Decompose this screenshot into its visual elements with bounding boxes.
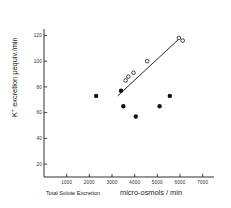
axes	[44, 29, 214, 177]
data-point-open	[181, 39, 185, 43]
figure: 20406080100120 1000200030004000500060007…	[0, 0, 231, 208]
scatter-plot	[0, 0, 231, 208]
x-tick-label: 2000	[80, 180, 98, 185]
x-tick-marks	[67, 174, 203, 177]
y-tick-label: 40	[32, 136, 42, 141]
trend-line-group	[118, 38, 180, 96]
y-tick-label: 100	[32, 59, 42, 64]
y-tick-marks	[44, 35, 47, 164]
y-tick-label: 20	[32, 162, 42, 167]
y-axis-label-prefix: K	[10, 112, 19, 117]
data-point-filled	[94, 94, 98, 98]
y-tick-label: 80	[32, 85, 42, 90]
x-axis-label-part2: micro-osmols / min	[120, 188, 182, 197]
data-markers-group	[94, 36, 185, 119]
y-tick-label: 120	[32, 33, 42, 38]
x-tick-label: 6000	[171, 180, 189, 185]
x-tick-label: 3000	[103, 180, 121, 185]
x-tick-label: 7000	[194, 180, 212, 185]
data-point-filled	[134, 114, 138, 118]
data-point-open	[127, 75, 131, 79]
regression-line	[118, 38, 180, 96]
x-tick-label: 1000	[58, 180, 76, 185]
data-point-filled	[157, 104, 161, 108]
y-tick-label: 60	[32, 110, 42, 115]
x-tick-label: 5000	[148, 180, 166, 185]
data-point-open	[177, 36, 181, 40]
data-point-open	[124, 79, 128, 83]
x-axis-label-part1: Total Solute Excretion	[46, 190, 100, 196]
y-axis-label: K+ excretion µequiv./min	[9, 17, 19, 137]
x-tick-label: 4000	[126, 180, 144, 185]
data-point-filled	[121, 104, 125, 108]
data-point-open	[145, 59, 149, 63]
y-axis-label-rest: excretion µequiv./min	[10, 37, 19, 109]
data-point-filled	[119, 89, 123, 93]
y-axis-label-superscript: +	[9, 109, 15, 112]
data-point-open	[132, 71, 136, 75]
data-point-filled	[168, 94, 172, 98]
